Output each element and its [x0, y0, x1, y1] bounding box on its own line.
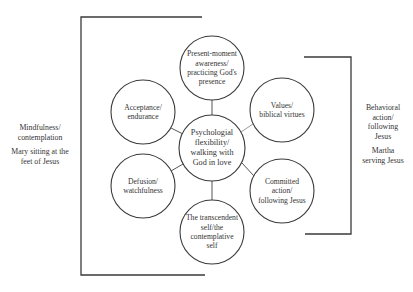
self-node-label: The transcendent self/the contemplative … [180, 200, 244, 264]
martha-line-1: Martha [372, 146, 395, 155]
behavioral-line-4: Jesus [375, 132, 391, 141]
behavioral-label: Behavioral action/ following Jesus [354, 103, 412, 141]
values-line-1: Values/ [259, 101, 304, 110]
self-line-1: The transcendent [186, 213, 238, 222]
center-line-1: Psychologial [191, 128, 234, 138]
behavioral-line-1: Behavioral [366, 103, 400, 112]
present-line-3: practicing God's [187, 68, 237, 77]
left-group-label: Mindfulness/ contemplation Mary sitting … [2, 123, 78, 166]
center-line-3: walking with [191, 148, 234, 158]
defusion-node-label: Defusion/ watchfulness [111, 154, 175, 218]
present-line-1: Present-moment [187, 49, 237, 58]
right-group-label: Behavioral action/ following Jesus Marth… [354, 103, 412, 166]
committed-line-3: following Jesus [258, 196, 305, 205]
defusion-line-1: Defusion/ [123, 177, 163, 186]
committed-line-1: Committed [258, 177, 305, 186]
values-line-2: biblical virtues [259, 110, 304, 119]
martha-label: Martha serving Jesus [354, 146, 412, 165]
acceptance-node-label: Acceptance/ endurance [111, 80, 175, 144]
defusion-line-2: watchfulness [123, 186, 163, 195]
behavioral-line-2: action/ [372, 113, 393, 122]
mary-line-2: feet of Jesus [21, 157, 60, 166]
center-line-4: God in love [191, 158, 234, 168]
mary-line-1: Mary sitting at the [11, 147, 68, 156]
mindfulness-line-1: Mindfulness/ [19, 123, 60, 132]
self-line-3: contemplative [186, 232, 238, 241]
mary-label: Mary sitting at the feet of Jesus [2, 147, 78, 166]
committed-node-label: Committed action/ following Jesus [250, 159, 314, 223]
present-node-label: Present-moment awareness/ practicing God… [180, 36, 244, 100]
present-line-2: awareness/ [187, 59, 237, 68]
mindfulness-line-2: contemplation [18, 133, 63, 142]
self-line-4: self [186, 241, 238, 250]
center-node-label: Psychologial flexibility/ walking with G… [179, 115, 245, 181]
self-line-2: self/the [186, 223, 238, 232]
martha-line-2: serving Jesus [362, 156, 403, 165]
committed-line-2: action/ [258, 186, 305, 195]
acceptance-line-1: Acceptance/ [124, 103, 162, 112]
present-line-4: presence [187, 77, 237, 86]
behavioral-line-3: following [368, 122, 398, 131]
mindfulness-label: Mindfulness/ contemplation [2, 123, 78, 142]
acceptance-line-2: endurance [124, 112, 162, 121]
values-node-label: Values/ biblical virtues [250, 78, 314, 142]
center-line-2: flexibility/ [191, 138, 234, 148]
